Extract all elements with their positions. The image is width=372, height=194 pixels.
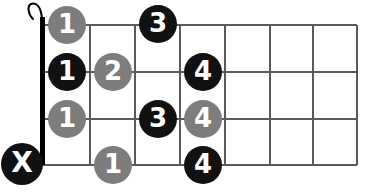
finger-marker-3-1: 3 <box>139 5 177 43</box>
finger-marker-1-5: 1 <box>48 100 86 138</box>
marker-label: 1 <box>58 58 76 84</box>
marker-label: 4 <box>194 105 212 131</box>
guitar-chord-diagram: 1312413414X <box>0 0 372 194</box>
finger-marker-3-6: 3 <box>139 100 177 138</box>
finger-marker-2-3: 2 <box>94 53 132 91</box>
marker-label: 1 <box>58 11 76 37</box>
finger-marker-1-0: 1 <box>48 6 86 44</box>
finger-marker-4-4: 4 <box>184 53 222 91</box>
finger-marker-1-8: 1 <box>94 146 132 184</box>
marker-label: 3 <box>149 10 167 36</box>
marker-label: 4 <box>194 58 212 84</box>
mute-string-marker: X <box>1 143 43 185</box>
marker-label: 4 <box>194 151 212 177</box>
nut-hook-curve-icon <box>29 4 42 19</box>
finger-marker-4-9: 4 <box>184 146 222 184</box>
marker-label: 1 <box>104 151 122 177</box>
marker-label: 2 <box>104 58 122 84</box>
finger-marker-1-2: 1 <box>48 53 86 91</box>
marker-label: 1 <box>58 105 76 131</box>
marker-label: X <box>11 149 33 177</box>
finger-marker-4-7: 4 <box>184 100 222 138</box>
marker-label: 3 <box>149 105 167 131</box>
